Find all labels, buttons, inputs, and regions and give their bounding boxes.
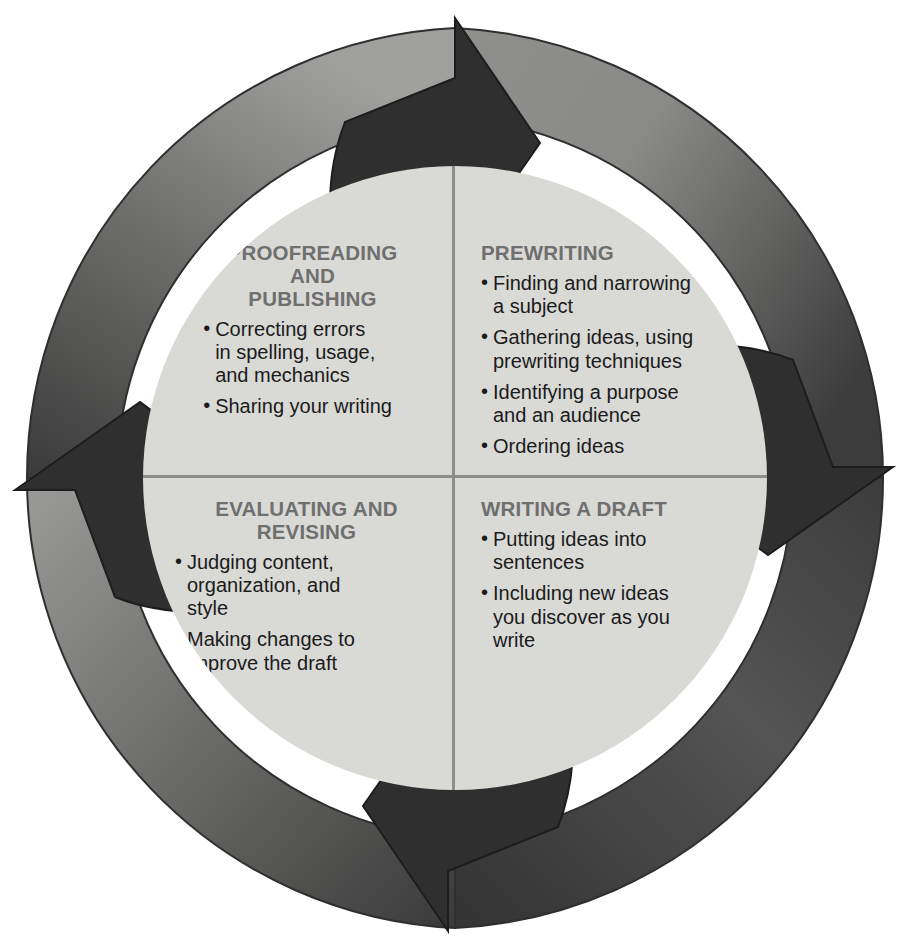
list-item: Including new ideas you discover as you …: [481, 582, 741, 652]
list-item: Sharing your writing: [203, 395, 392, 418]
writing-process-diagram: PROOFREADING AND PUBLISHING Correcting e…: [0, 0, 903, 939]
list-item: Ordering ideas: [481, 435, 737, 458]
list-item: Finding and narrowing a subject: [481, 272, 737, 318]
quadrant-writing-a-draft: WRITING A DRAFT Putting ideas into sente…: [455, 478, 767, 790]
bullet-list-proofreading-and-publishing: Correcting errors in spelling, usage, an…: [203, 318, 392, 427]
bullet-list-evaluating-and-revising: Judging content, organization, and style…: [175, 551, 434, 683]
quadrant-title-writing-a-draft: WRITING A DRAFT: [481, 498, 741, 521]
list-item: Correcting errors in spelling, usage, an…: [203, 318, 392, 388]
process-wheel-inner: PROOFREADING AND PUBLISHING Correcting e…: [143, 166, 767, 790]
bullet-list-prewriting: Finding and narrowing a subject Gatherin…: [481, 272, 737, 466]
bullet-list-writing-a-draft: Putting ideas into sentences Including n…: [481, 528, 741, 660]
quadrant-proofreading-and-publishing: PROOFREADING AND PUBLISHING Correcting e…: [143, 166, 455, 478]
quadrant-title-proofreading-and-publishing: PROOFREADING AND PUBLISHING: [228, 242, 398, 311]
list-item: Identifying a purpose and an audience: [481, 381, 737, 427]
list-item: Putting ideas into sentences: [481, 528, 741, 574]
quadrant-evaluating-and-revising: EVALUATING AND REVISING Judging content,…: [143, 478, 455, 790]
list-item: Gathering ideas, using prewriting techni…: [481, 326, 737, 372]
quadrant-title-prewriting: PREWRITING: [481, 242, 737, 265]
quadrant-title-evaluating-and-revising: EVALUATING AND REVISING: [179, 498, 434, 544]
list-item: Making changes to improve the draft: [175, 628, 434, 674]
quadrant-prewriting: PREWRITING Finding and narrowing a subje…: [455, 166, 767, 478]
list-item: Judging content, organization, and style: [175, 551, 434, 621]
